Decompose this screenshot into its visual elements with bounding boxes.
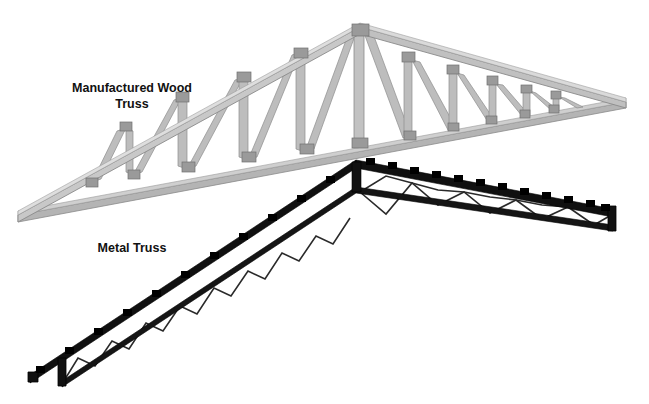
truss-diagram-svg: Manufactured Wood Truss Metal Truss xyxy=(0,0,649,404)
truss-diagram-figure: Manufactured Wood Truss Metal Truss xyxy=(0,0,649,404)
metal-ridge-post xyxy=(352,162,361,192)
metal-truss-label: Metal Truss xyxy=(98,241,167,255)
wood-truss-label-line2: Truss xyxy=(115,97,148,111)
wood-truss-label-line1: Manufactured Wood xyxy=(72,81,192,95)
wood-king-post xyxy=(354,29,364,146)
metal-truss-label-line1: Metal Truss xyxy=(98,241,167,255)
